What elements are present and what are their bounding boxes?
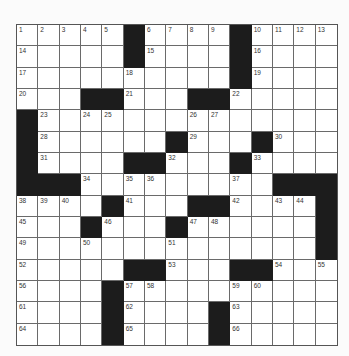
crossword-cell[interactable]: 21: [124, 89, 145, 110]
crossword-cell[interactable]: [316, 110, 337, 131]
crossword-cell[interactable]: 1: [17, 25, 38, 46]
crossword-cell[interactable]: 50: [81, 238, 102, 259]
crossword-cell[interactable]: [60, 68, 81, 89]
crossword-cell[interactable]: [294, 238, 315, 259]
crossword-cell[interactable]: 41: [124, 196, 145, 217]
crossword-cell[interactable]: [316, 89, 337, 110]
crossword-cell[interactable]: [145, 132, 166, 153]
crossword-cell[interactable]: 15: [145, 46, 166, 67]
crossword-cell[interactable]: 60: [252, 281, 273, 302]
crossword-cell[interactable]: [294, 132, 315, 153]
crossword-cell[interactable]: [124, 217, 145, 238]
crossword-cell[interactable]: [230, 238, 251, 259]
crossword-cell[interactable]: 24: [81, 110, 102, 131]
crossword-cell[interactable]: 64: [17, 324, 38, 345]
crossword-cell[interactable]: [38, 324, 59, 345]
crossword-cell[interactable]: 27: [209, 110, 230, 131]
crossword-cell[interactable]: [252, 110, 273, 131]
crossword-cell[interactable]: [273, 324, 294, 345]
crossword-cell[interactable]: 52: [17, 260, 38, 281]
crossword-cell[interactable]: [81, 260, 102, 281]
crossword-cell[interactable]: [166, 68, 187, 89]
crossword-cell[interactable]: 48: [209, 217, 230, 238]
crossword-cell[interactable]: [188, 153, 209, 174]
crossword-cell[interactable]: [38, 260, 59, 281]
crossword-cell[interactable]: [273, 110, 294, 131]
crossword-cell[interactable]: [273, 217, 294, 238]
crossword-cell[interactable]: 44: [294, 196, 315, 217]
crossword-cell[interactable]: [38, 217, 59, 238]
crossword-cell[interactable]: [209, 238, 230, 259]
crossword-cell[interactable]: [60, 217, 81, 238]
crossword-cell[interactable]: [294, 89, 315, 110]
crossword-cell[interactable]: [102, 68, 123, 89]
crossword-cell[interactable]: [60, 324, 81, 345]
crossword-cell[interactable]: [252, 174, 273, 195]
crossword-cell[interactable]: [102, 174, 123, 195]
crossword-cell[interactable]: [209, 153, 230, 174]
crossword-cell[interactable]: [209, 174, 230, 195]
crossword-cell[interactable]: [230, 132, 251, 153]
crossword-cell[interactable]: [273, 68, 294, 89]
crossword-cell[interactable]: [38, 89, 59, 110]
crossword-cell[interactable]: [60, 132, 81, 153]
crossword-cell[interactable]: [102, 132, 123, 153]
crossword-cell[interactable]: [188, 174, 209, 195]
crossword-cell[interactable]: [145, 110, 166, 131]
crossword-cell[interactable]: [60, 110, 81, 131]
crossword-cell[interactable]: [145, 89, 166, 110]
crossword-cell[interactable]: [166, 174, 187, 195]
crossword-cell[interactable]: 58: [145, 281, 166, 302]
crossword-cell[interactable]: [316, 68, 337, 89]
crossword-cell[interactable]: [316, 302, 337, 323]
crossword-cell[interactable]: 56: [17, 281, 38, 302]
crossword-cell[interactable]: [81, 132, 102, 153]
crossword-cell[interactable]: [81, 281, 102, 302]
crossword-cell[interactable]: [102, 260, 123, 281]
crossword-cell[interactable]: [294, 110, 315, 131]
crossword-cell[interactable]: 49: [17, 238, 38, 259]
crossword-cell[interactable]: 9: [209, 25, 230, 46]
crossword-cell[interactable]: [124, 132, 145, 153]
crossword-cell[interactable]: [60, 89, 81, 110]
crossword-cell[interactable]: 6: [145, 25, 166, 46]
crossword-cell[interactable]: 7: [166, 25, 187, 46]
crossword-cell[interactable]: 10: [252, 25, 273, 46]
crossword-cell[interactable]: [38, 238, 59, 259]
crossword-cell[interactable]: [252, 238, 273, 259]
crossword-cell[interactable]: [38, 281, 59, 302]
crossword-cell[interactable]: [252, 196, 273, 217]
crossword-cell[interactable]: [188, 238, 209, 259]
crossword-cell[interactable]: [38, 68, 59, 89]
crossword-cell[interactable]: [209, 68, 230, 89]
crossword-cell[interactable]: 26: [188, 110, 209, 131]
crossword-cell[interactable]: [252, 302, 273, 323]
crossword-cell[interactable]: [166, 196, 187, 217]
crossword-cell[interactable]: [145, 324, 166, 345]
crossword-cell[interactable]: [166, 110, 187, 131]
crossword-cell[interactable]: 65: [124, 324, 145, 345]
crossword-cell[interactable]: [145, 196, 166, 217]
crossword-cell[interactable]: [294, 260, 315, 281]
crossword-cell[interactable]: [38, 302, 59, 323]
crossword-cell[interactable]: [81, 68, 102, 89]
crossword-cell[interactable]: [60, 302, 81, 323]
crossword-cell[interactable]: [188, 46, 209, 67]
crossword-cell[interactable]: 35: [124, 174, 145, 195]
crossword-cell[interactable]: [124, 110, 145, 131]
crossword-cell[interactable]: [188, 260, 209, 281]
crossword-cell[interactable]: 12: [294, 25, 315, 46]
crossword-cell[interactable]: 66: [230, 324, 251, 345]
crossword-cell[interactable]: 53: [166, 260, 187, 281]
crossword-cell[interactable]: 57: [124, 281, 145, 302]
crossword-cell[interactable]: 36: [145, 174, 166, 195]
crossword-cell[interactable]: 33: [252, 153, 273, 174]
crossword-cell[interactable]: 31: [38, 153, 59, 174]
crossword-cell[interactable]: [81, 46, 102, 67]
crossword-cell[interactable]: [294, 68, 315, 89]
crossword-cell[interactable]: [81, 302, 102, 323]
crossword-cell[interactable]: 54: [273, 260, 294, 281]
crossword-cell[interactable]: 39: [38, 196, 59, 217]
crossword-cell[interactable]: [209, 46, 230, 67]
crossword-cell[interactable]: [60, 153, 81, 174]
